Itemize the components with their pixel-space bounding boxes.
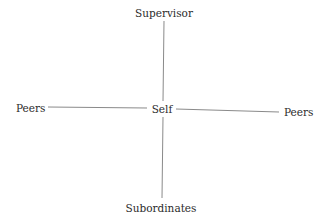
node-supervisor: Supervisor <box>135 7 193 19</box>
edge-self-subordinates <box>162 117 163 198</box>
self-relationship-diagram: Supervisor Self Peers Peers Subordinates <box>0 0 327 223</box>
edge-self-peers-left <box>48 107 147 108</box>
edge-self-peers-right <box>176 109 279 112</box>
node-peers-right: Peers <box>284 106 313 118</box>
node-peers-left: Peers <box>16 102 45 114</box>
node-self: Self <box>152 103 173 115</box>
node-subordinates: Subordinates <box>126 202 197 214</box>
edge-self-supervisor <box>163 21 164 101</box>
